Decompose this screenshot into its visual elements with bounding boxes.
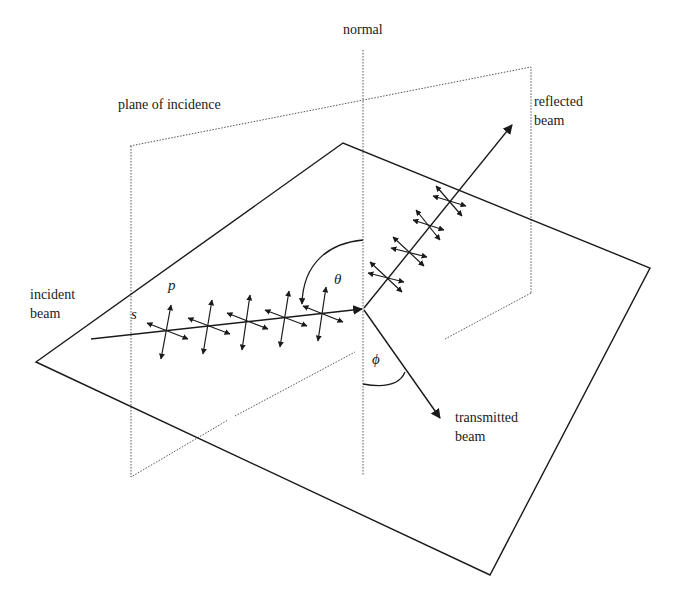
interface-surface (36, 143, 650, 575)
incident-beam-label-line2: beam (30, 304, 60, 323)
incident-polarization-arrows (147, 287, 343, 359)
s-polarization-label: s (131, 305, 137, 324)
incident-beam-label-line1: incident (30, 285, 75, 304)
reflected-beam-label-line2: beam (534, 111, 564, 130)
theta-angle-arc (302, 240, 363, 304)
transmitted-beam-label-line1: transmitted (455, 408, 518, 427)
diagram-canvas: normal plane of incidence reflected beam… (0, 0, 681, 607)
reflected-beam-arrow (364, 125, 512, 308)
reflected-beam-label-line1: reflected (534, 92, 583, 111)
phi-label: ϕ (372, 350, 380, 369)
p-polarization-label: p (168, 276, 176, 295)
plane-of-incidence-label: plane of incidence (118, 95, 221, 114)
phi-angle-arc (363, 372, 405, 386)
transmitted-beam-label-line2: beam (455, 427, 485, 446)
theta-label: θ (334, 270, 341, 289)
normal-label: normal (343, 20, 383, 39)
reflected-polarization-arrows (368, 186, 466, 292)
